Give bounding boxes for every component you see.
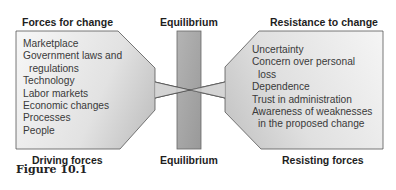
list-item: Awareness of weaknesses bbox=[252, 106, 372, 118]
list-item: Uncertainty bbox=[252, 44, 372, 56]
list-item: Dependence bbox=[252, 81, 372, 93]
figure-label: Figure 10.1 bbox=[16, 163, 87, 176]
list-item: Technology bbox=[23, 75, 122, 87]
forces-for-change-heading: Forces for change bbox=[22, 16, 113, 28]
list-item: Concern over personal bbox=[252, 56, 372, 68]
list-item: Trust in administration bbox=[252, 94, 372, 106]
list-item: in the proposed change bbox=[252, 118, 372, 130]
list-item: Marketplace bbox=[23, 38, 122, 50]
resisting-forces-list: Uncertainty Concern over personal loss D… bbox=[252, 44, 372, 131]
list-item: loss bbox=[252, 69, 372, 81]
list-item: Economic changes bbox=[23, 100, 122, 112]
equilibrium-heading-top: Equilibrium bbox=[160, 16, 218, 28]
equilibrium-caption-bottom: Equilibrium bbox=[160, 154, 218, 166]
list-item: regulations bbox=[23, 63, 122, 75]
list-item: Government laws and bbox=[23, 50, 122, 62]
list-item: Labor markets bbox=[23, 88, 122, 100]
resistance-to-change-heading: Resistance to change bbox=[270, 16, 378, 28]
list-item: Processes bbox=[23, 112, 122, 124]
resisting-forces-caption: Resisting forces bbox=[282, 154, 364, 166]
list-item: People bbox=[23, 125, 122, 137]
driving-forces-list: Marketplace Government laws and regulati… bbox=[23, 38, 122, 137]
